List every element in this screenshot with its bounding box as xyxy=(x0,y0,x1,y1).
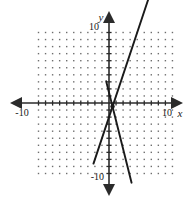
grid-dot xyxy=(45,81,46,82)
grid-dot xyxy=(115,81,116,82)
grid-dot xyxy=(158,173,159,174)
grid-dot xyxy=(59,39,60,40)
grid-dot xyxy=(165,152,166,153)
grid-dot xyxy=(80,123,81,124)
grid-dot xyxy=(101,166,102,167)
grid-dot xyxy=(59,81,60,82)
grid-dot xyxy=(115,173,116,174)
grid-dot xyxy=(80,81,81,82)
grid-dot xyxy=(151,95,152,96)
grid-dot xyxy=(94,67,95,68)
grid-dot xyxy=(73,166,74,167)
grid-dot xyxy=(151,74,152,75)
grid-dot xyxy=(137,39,138,40)
grid-dot xyxy=(52,116,53,117)
grid-dot xyxy=(80,138,81,139)
grid-dot xyxy=(101,39,102,40)
grid-dot xyxy=(165,74,166,75)
grid-dot xyxy=(122,123,123,124)
grid-dot xyxy=(66,145,67,146)
grid-dot xyxy=(172,53,173,54)
grid-dot xyxy=(144,109,145,110)
grid-dot xyxy=(172,152,173,153)
grid-dot xyxy=(38,166,39,167)
grid-dot xyxy=(66,95,67,96)
grid-dot xyxy=(151,81,152,82)
grid-dot xyxy=(172,145,173,146)
grid-dot xyxy=(129,166,130,167)
grid-dot xyxy=(101,95,102,96)
grid-dot xyxy=(165,81,166,82)
grid-dot xyxy=(59,67,60,68)
grid-dot xyxy=(165,173,166,174)
grid-dot xyxy=(172,60,173,61)
grid-dot xyxy=(87,159,88,160)
grid-dot xyxy=(52,159,53,160)
grid-dot xyxy=(59,152,60,153)
grid-dot xyxy=(158,138,159,139)
grid-dot xyxy=(94,145,95,146)
grid-dot xyxy=(172,39,173,40)
grid-dot xyxy=(87,39,88,40)
grid-dot xyxy=(165,60,166,61)
grid-dot xyxy=(52,166,53,167)
grid-dot xyxy=(73,116,74,117)
graph-container: x y -10 10 10 -10 xyxy=(0,0,193,201)
grid-dot xyxy=(151,166,152,167)
grid-dot xyxy=(87,123,88,124)
grid-dot xyxy=(52,152,53,153)
grid-dot xyxy=(66,116,67,117)
grid-dot xyxy=(59,173,60,174)
grid-dot xyxy=(165,131,166,132)
grid-dot xyxy=(38,95,39,96)
grid-dot xyxy=(45,67,46,68)
grid-dot xyxy=(38,67,39,68)
grid-dot xyxy=(52,74,53,75)
grid-dot xyxy=(52,67,53,68)
grid-dot xyxy=(66,166,67,167)
grid-dot xyxy=(80,159,81,160)
grid-dot xyxy=(122,60,123,61)
grid-dot xyxy=(66,109,67,110)
grid-dot xyxy=(122,138,123,139)
grid-dot xyxy=(158,81,159,82)
grid-dot xyxy=(59,109,60,110)
grid-dot xyxy=(165,95,166,96)
grid-dot xyxy=(129,123,130,124)
grid-dot xyxy=(144,74,145,75)
grid-dot xyxy=(151,123,152,124)
grid-dot xyxy=(158,95,159,96)
grid-dot xyxy=(137,123,138,124)
grid-dot xyxy=(80,60,81,61)
grid-dot xyxy=(66,74,67,75)
grid-dot xyxy=(94,152,95,153)
grid-dot xyxy=(52,60,53,61)
grid-dot xyxy=(151,116,152,117)
grid-dot xyxy=(45,60,46,61)
grid-dot xyxy=(52,131,53,132)
grid-dot xyxy=(165,39,166,40)
grid-dot xyxy=(144,32,145,33)
grid-dot xyxy=(66,32,67,33)
grid-dot xyxy=(94,123,95,124)
grid-dot xyxy=(80,131,81,132)
grid-dot xyxy=(73,39,74,40)
grid-dot xyxy=(52,39,53,40)
grid-dot xyxy=(137,173,138,174)
grid-dot xyxy=(45,123,46,124)
grid-dot xyxy=(87,67,88,68)
grid-dot xyxy=(45,145,46,146)
grid-dot xyxy=(129,60,130,61)
grid-dot xyxy=(129,88,130,89)
grid-dot xyxy=(38,53,39,54)
grid-dot xyxy=(137,145,138,146)
grid-dot xyxy=(144,60,145,61)
grid-dot xyxy=(73,53,74,54)
grid-dot xyxy=(73,145,74,146)
grid-dot xyxy=(73,67,74,68)
grid-dot xyxy=(172,88,173,89)
grid-dot xyxy=(137,60,138,61)
y-max-tick-label: 10 xyxy=(89,21,99,32)
axes-group xyxy=(10,11,183,196)
grid-dot xyxy=(94,32,95,33)
